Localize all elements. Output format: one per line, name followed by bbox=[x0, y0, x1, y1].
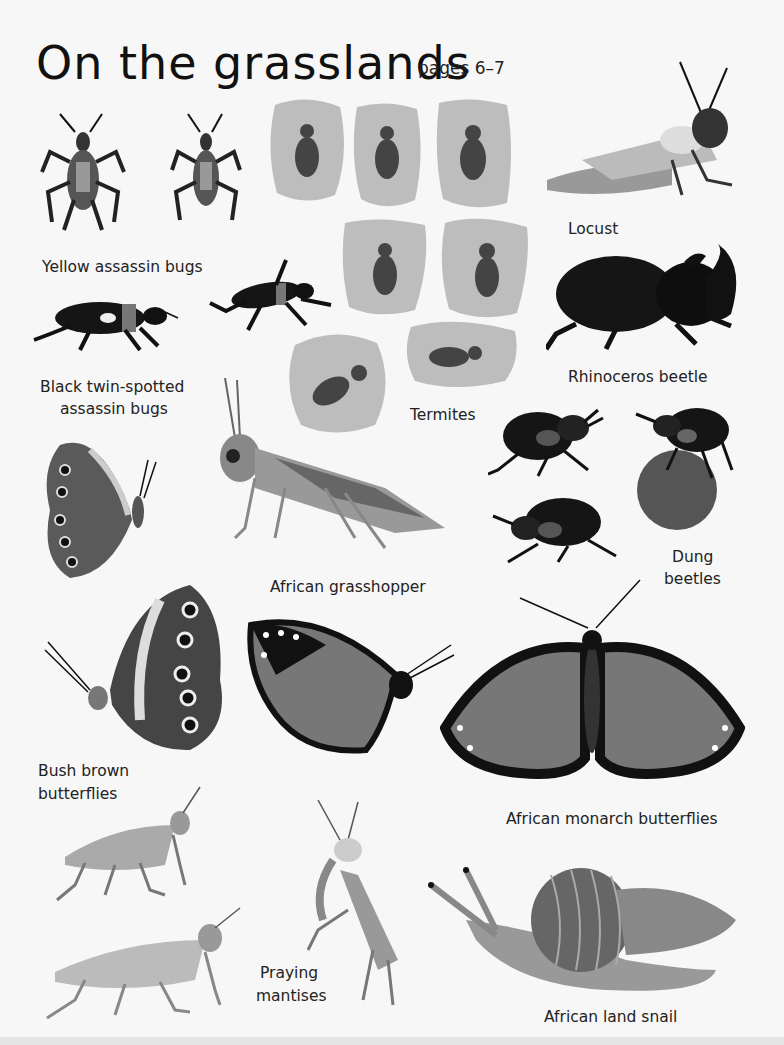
label-rhinoceros-beetle: Rhinoceros beetle bbox=[568, 366, 708, 388]
african-land-snail-sticker[interactable] bbox=[426, 860, 746, 1000]
label-african-monarch-butterflies: African monarch butterflies bbox=[506, 808, 718, 830]
african-monarch-butterfly-sticker[interactable] bbox=[246, 615, 456, 755]
locust-sticker[interactable] bbox=[542, 60, 757, 210]
page-title: On the grasslands bbox=[36, 36, 471, 90]
label-locust: Locust bbox=[568, 218, 618, 240]
african-grasshopper-sticker[interactable] bbox=[215, 378, 450, 553]
page-edge bbox=[0, 1037, 784, 1045]
label-african-grasshopper: African grasshopper bbox=[270, 576, 426, 598]
african-monarch-butterfly-sticker[interactable] bbox=[440, 578, 745, 788]
label-dung-beetles-line1: Dung bbox=[672, 546, 713, 568]
yellow-assassin-bug-sticker[interactable] bbox=[40, 112, 130, 237]
label-praying-mantises-line2: mantises bbox=[256, 985, 327, 1007]
bush-brown-butterfly-sticker[interactable] bbox=[40, 580, 230, 755]
page-reference: pages 6–7 bbox=[418, 58, 505, 78]
yellow-assassin-bug-sticker[interactable] bbox=[170, 112, 245, 232]
label-yellow-assassin-bugs: Yellow assassin bugs bbox=[42, 256, 203, 278]
label-african-land-snail: African land snail bbox=[544, 1006, 677, 1028]
bush-brown-butterfly-sticker[interactable] bbox=[40, 440, 160, 580]
black-assassin-bug-sticker[interactable] bbox=[30, 290, 180, 355]
label-black-assassin-bugs-line1: Black twin-spotted bbox=[40, 376, 184, 398]
rhinoceros-beetle-sticker[interactable] bbox=[546, 244, 746, 354]
dung-beetle-with-ball-sticker[interactable] bbox=[632, 400, 742, 530]
praying-mantis-sticker[interactable] bbox=[55, 785, 205, 905]
label-praying-mantises-line1: Praying bbox=[260, 962, 318, 984]
label-bush-brown-butterflies-line1: Bush brown bbox=[38, 760, 129, 782]
label-black-assassin-bugs-line2: assassin bugs bbox=[60, 398, 168, 420]
dung-beetle-sticker[interactable] bbox=[488, 494, 618, 564]
praying-mantis-sticker[interactable] bbox=[45, 900, 245, 1020]
dung-beetle-sticker[interactable] bbox=[488, 398, 608, 478]
